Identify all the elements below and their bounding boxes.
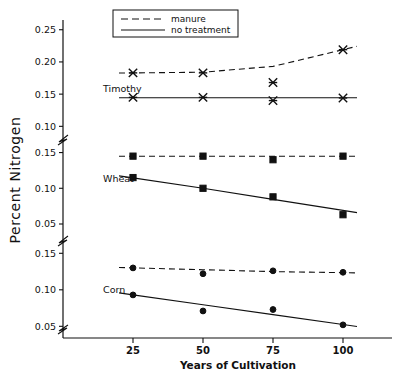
- panel-label-timothy: Timothy: [102, 83, 142, 94]
- data-point-wheat-manure-25: [130, 153, 136, 159]
- series-line-wheat-no-treatment: [119, 176, 357, 213]
- panel-label-corn: Corn: [103, 284, 125, 295]
- panel-wheat: 0.150.100.05Wheat: [35, 147, 357, 229]
- legend-label-no-treatment: no treatment: [171, 25, 231, 35]
- y-tick-label: 0.15: [35, 89, 56, 100]
- data-point-corn-no-treatment-25: [130, 292, 136, 298]
- panel-timothy: 0.250.200.150.10Timothy: [35, 24, 357, 132]
- data-point-wheat-no-treatment-50: [200, 185, 206, 191]
- data-point-wheat-no-treatment-100: [340, 212, 346, 218]
- series-line-corn-no-treatment: [119, 293, 357, 327]
- y-tick-label: 0.20: [35, 56, 56, 67]
- data-point-corn-no-treatment-100: [340, 322, 346, 328]
- y-tick-label: 0.05: [35, 321, 56, 332]
- data-point-corn-manure-25: [130, 265, 136, 271]
- legend-label-manure: manure: [171, 14, 206, 24]
- data-point-corn-manure-100: [340, 269, 346, 275]
- x-tick-label: 25: [126, 345, 140, 356]
- data-point-corn-no-treatment-75: [270, 307, 276, 313]
- data-point-wheat-manure-75: [270, 157, 276, 163]
- x-tick-label: 75: [266, 345, 280, 356]
- panel-label-wheat: Wheat: [103, 173, 134, 184]
- x-tick-label: 100: [333, 345, 354, 356]
- data-point-corn-manure-50: [200, 271, 206, 277]
- series-line-timothy-manure: [119, 46, 357, 73]
- y-tick-label: 0.15: [35, 248, 56, 259]
- y-tick-label: 0.15: [35, 147, 56, 158]
- chart-canvas: 0.250.200.150.10Timothy0.150.100.05Wheat…: [0, 0, 402, 382]
- data-point-wheat-manure-100: [340, 153, 346, 159]
- data-point-corn-no-treatment-50: [200, 308, 206, 314]
- y-tick-label: 0.10: [35, 121, 56, 132]
- chart-figure: 0.250.200.150.10Timothy0.150.100.05Wheat…: [0, 0, 402, 382]
- y-tick-label: 0.10: [35, 183, 56, 194]
- data-point-wheat-no-treatment-75: [270, 194, 276, 200]
- data-point-wheat-manure-50: [200, 153, 206, 159]
- x-axis-title: Years of Cultivation: [179, 359, 296, 371]
- data-point-corn-manure-75: [270, 268, 276, 274]
- y-tick-label: 0.10: [35, 284, 56, 295]
- series-line-corn-manure: [119, 268, 357, 273]
- x-tick-label: 50: [196, 345, 210, 356]
- y-axis-title: Percent Nitrogen: [7, 117, 23, 244]
- y-tick-label: 0.05: [35, 218, 56, 229]
- panel-corn: 0.150.100.05Corn: [35, 248, 357, 332]
- y-tick-label: 0.25: [35, 24, 56, 35]
